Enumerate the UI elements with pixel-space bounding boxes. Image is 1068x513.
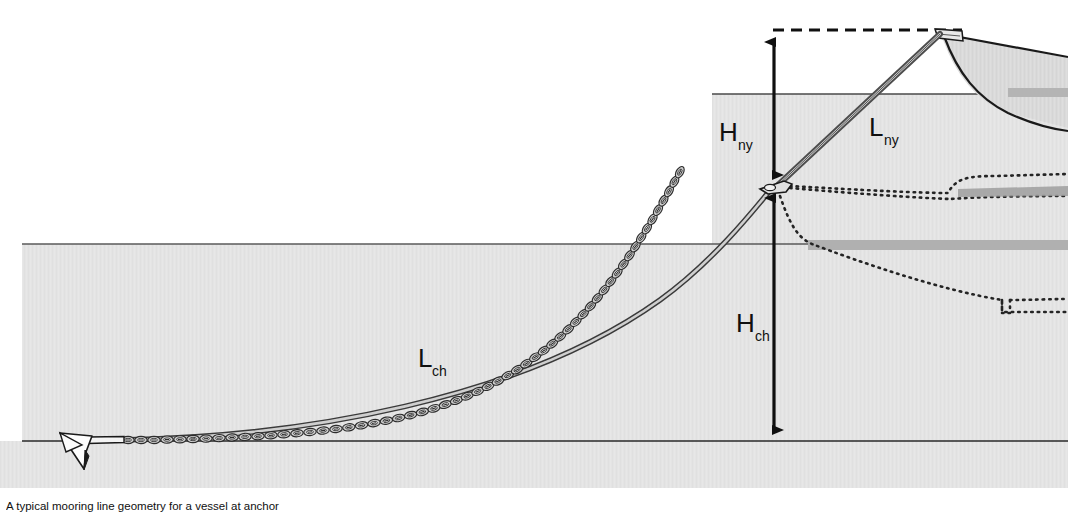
vessel-waterline-stripe: [1008, 88, 1068, 97]
label-l-ny-subscript: ny: [884, 132, 899, 148]
label-h-ny-subscript: ny: [738, 137, 753, 153]
mooring-geometry-figure: H ny L ny H ch L ch A typical mooring li…: [0, 0, 1068, 513]
label-h-ch-subscript: ch: [755, 328, 770, 344]
water-body: [0, 94, 1068, 488]
seabed-region: [0, 441, 1068, 488]
label-l-ch-subscript: ch: [432, 363, 447, 379]
water-column-lower: [22, 244, 1068, 441]
pontoon-top-band: [808, 240, 1068, 250]
diagram-canvas: H ny L ny H ch L ch: [0, 0, 1068, 513]
label-h-ch-symbol: H: [736, 308, 755, 338]
figure-caption: A typical mooring line geometry for a ve…: [6, 500, 606, 513]
label-l-ch-symbol: L: [418, 343, 432, 373]
label-h-ny-symbol: H: [719, 117, 738, 147]
label-l-ny-symbol: L: [869, 112, 883, 142]
